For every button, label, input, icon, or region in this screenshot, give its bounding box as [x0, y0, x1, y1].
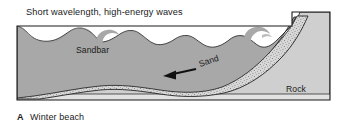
caption-letter: A	[17, 112, 24, 122]
label-rock: Rock	[286, 84, 307, 94]
figure-title: Short wavelength, high-energy waves	[26, 7, 183, 17]
figure-winter-beach: Short wavelength, high-energy waves Sand…	[0, 0, 346, 131]
label-sandbar: Sandbar	[76, 45, 109, 55]
winter-beach-diagram: Short wavelength, high-energy waves Sand…	[0, 0, 346, 131]
caption-text: Winter beach	[30, 112, 84, 122]
